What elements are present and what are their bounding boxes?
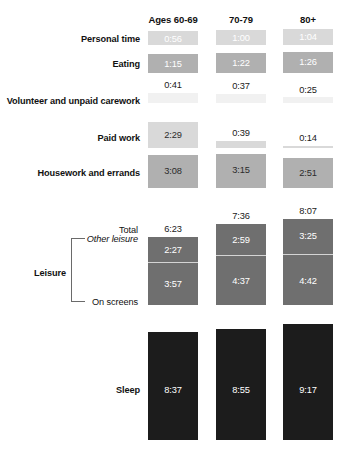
value-housework-60-69: 3:08 bbox=[148, 166, 198, 176]
top-edge-artifact bbox=[0, 0, 345, 9]
row-label-leisure-other: Other leisure bbox=[82, 234, 138, 244]
value-paid-work-80-plus: 0:14 bbox=[283, 133, 333, 143]
row-label-paid-work: Paid work bbox=[0, 133, 140, 143]
value-personal-time-60-69: 0:56 bbox=[148, 34, 198, 44]
value-sleep-60-69: 8:37 bbox=[148, 385, 198, 395]
value-leisure-screens-70-79: 4:37 bbox=[216, 276, 266, 286]
value-leisure-other-60-69: 2:27 bbox=[148, 245, 198, 255]
time-use-bar-chart: Ages 60-69 70-79 80+ Personal time 0:56 … bbox=[0, 0, 345, 461]
value-leisure-total-60-69: 6:23 bbox=[148, 224, 198, 234]
value-leisure-total-80-plus: 8:07 bbox=[283, 206, 333, 216]
value-paid-work-60-69: 2:29 bbox=[148, 130, 198, 140]
row-label-personal-time: Personal time bbox=[0, 34, 140, 44]
value-paid-work-70-79: 0:39 bbox=[216, 128, 266, 138]
row-label-volunteer-and-unpaid-carework: Volunteer and unpaid carework bbox=[0, 96, 140, 106]
value-leisure-other-70-79: 2:59 bbox=[216, 235, 266, 245]
bar-paid-work-80-plus bbox=[283, 146, 333, 148]
value-volunteer-70-79: 0:37 bbox=[216, 81, 266, 91]
column-header-80-plus: 80+ bbox=[283, 14, 333, 25]
bar-volunteer-70-79 bbox=[216, 94, 266, 103]
bar-volunteer-80-plus bbox=[283, 97, 333, 103]
value-leisure-other-80-plus: 3:25 bbox=[283, 231, 333, 241]
value-sleep-70-79: 8:55 bbox=[216, 385, 266, 395]
value-leisure-total-70-79: 7:36 bbox=[216, 211, 266, 221]
row-label-sleep: Sleep bbox=[0, 385, 140, 395]
value-eating-80-plus: 1:26 bbox=[283, 57, 333, 67]
value-leisure-screens-60-69: 3:57 bbox=[148, 279, 198, 289]
value-volunteer-80-plus: 0:25 bbox=[283, 85, 333, 95]
bar-sleep-80-plus bbox=[283, 324, 333, 440]
value-personal-time-80-plus: 1:04 bbox=[283, 32, 333, 42]
row-label-eating: Eating bbox=[0, 59, 140, 69]
column-header-70-79: 70-79 bbox=[216, 14, 266, 25]
value-housework-70-79: 3:15 bbox=[216, 165, 266, 175]
column-header-ages-60-69: Ages 60-69 bbox=[148, 14, 198, 25]
value-volunteer-60-69: 0:41 bbox=[148, 80, 198, 90]
value-personal-time-70-79: 1:00 bbox=[216, 33, 266, 43]
row-label-leisure-on-screens: On screens bbox=[82, 297, 138, 307]
leisure-bracket bbox=[71, 238, 85, 302]
value-eating-70-79: 1:22 bbox=[216, 58, 266, 68]
bar-paid-work-70-79 bbox=[216, 141, 266, 148]
bar-volunteer-60-69 bbox=[148, 93, 198, 103]
value-sleep-80-plus: 9:17 bbox=[283, 385, 333, 395]
value-housework-80-plus: 2:51 bbox=[283, 168, 333, 178]
row-label-housework-and-errands: Housework and errands bbox=[0, 168, 140, 178]
value-eating-60-69: 1:15 bbox=[148, 59, 198, 69]
value-leisure-screens-80-plus: 4:42 bbox=[283, 276, 333, 286]
row-label-leisure: Leisure bbox=[0, 268, 66, 278]
